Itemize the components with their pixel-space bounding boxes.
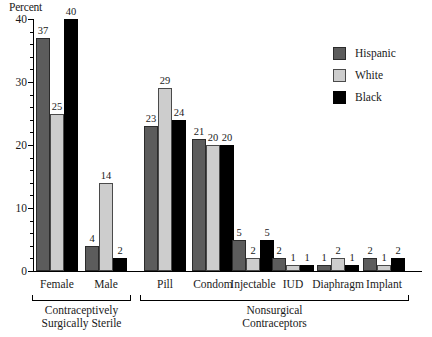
bar-value-label: 2 [335, 245, 340, 256]
bar [363, 258, 377, 271]
x-axis-label-male: Male [94, 278, 118, 290]
bar-value-label: 5 [264, 227, 269, 238]
y-tick-minor [30, 195, 33, 196]
legend-swatch-icon [333, 69, 346, 82]
y-tick-minor [30, 95, 33, 96]
y-tick-minor [30, 120, 33, 121]
y-tick-label: 10 [16, 202, 28, 214]
bar [345, 265, 359, 271]
group-bracket [32, 295, 131, 301]
bar [50, 114, 64, 272]
bar-value-label: 23 [146, 113, 157, 124]
y-tick-major [28, 82, 33, 83]
bar-value-label: 2 [117, 245, 122, 256]
bar [317, 265, 331, 271]
y-tick-label: 0 [21, 265, 27, 277]
x-axis-label-implant: Implant [366, 278, 402, 290]
bar [391, 258, 405, 271]
bar-value-label: 1 [321, 252, 326, 263]
group-label-line2: Contraceptors [242, 317, 307, 330]
bar-value-label: 29 [160, 75, 171, 86]
bar-value-label: 1 [290, 252, 295, 263]
bar [300, 265, 314, 271]
bar-chart: Percent 010203040 3725404142232924212020… [0, 0, 432, 337]
bar-value-label: 5 [236, 227, 241, 238]
y-tick-label: 40 [16, 13, 28, 25]
y-tick-minor [30, 107, 33, 108]
bar-value-label: 1 [304, 252, 309, 263]
bar-value-label: 20 [222, 132, 233, 143]
y-axis-title: Percent [9, 1, 42, 13]
bar [206, 145, 220, 271]
y-tick-minor [30, 132, 33, 133]
y-tick-minor [30, 246, 33, 247]
y-tick-minor [30, 183, 33, 184]
bar [377, 265, 391, 271]
y-tick-minor [30, 57, 33, 58]
bar [144, 126, 158, 271]
y-tick-minor [30, 258, 33, 259]
x-axis-label-iud: IUD [283, 278, 303, 290]
group-label-line1: Contraceptively [42, 304, 122, 317]
legend-item-hispanic: Hispanic [333, 42, 396, 64]
x-axis-line [33, 271, 422, 272]
bar [64, 19, 78, 271]
legend-item-white: White [333, 64, 396, 86]
y-tick-minor [30, 32, 33, 33]
legend-label: White [355, 69, 383, 81]
group-label: NonsurgicalContraceptors [242, 304, 307, 330]
y-tick-label: 20 [16, 139, 28, 151]
bar [272, 258, 286, 271]
group-bracket [140, 295, 409, 301]
bar-value-label: 2 [367, 245, 372, 256]
y-tick-label: 30 [16, 76, 28, 88]
bar-value-label: 2 [395, 245, 400, 256]
x-axis-label-diaphragm: Diaphragm [312, 278, 364, 290]
bar-value-label: 4 [89, 233, 94, 244]
bar [331, 258, 345, 271]
y-tick-minor [30, 158, 33, 159]
bar-value-label: 25 [52, 101, 63, 112]
chart-legend: HispanicWhiteBlack [333, 42, 396, 108]
bar-value-label: 37 [38, 25, 49, 36]
bar [99, 183, 113, 271]
bar [232, 240, 246, 272]
bar [85, 246, 99, 271]
bar-value-label: 2 [250, 245, 255, 256]
bar [158, 88, 172, 271]
legend-swatch-icon [333, 91, 346, 104]
legend-item-black: Black [333, 86, 396, 108]
bar-value-label: 2 [276, 245, 281, 256]
bar [192, 139, 206, 271]
y-tick-major [28, 271, 33, 272]
x-axis-label-female: Female [40, 278, 74, 290]
group-label-line1: Nonsurgical [242, 304, 307, 317]
bar-value-label: 20 [208, 132, 219, 143]
legend-label: Black [355, 91, 382, 103]
y-tick-minor [30, 69, 33, 70]
bar-value-label: 40 [66, 6, 77, 17]
y-axis-line [33, 19, 34, 271]
bar-value-label: 24 [174, 107, 185, 118]
bar-value-label: 1 [381, 252, 386, 263]
y-tick-minor [30, 233, 33, 234]
bar [286, 265, 300, 271]
bar-value-label: 14 [101, 170, 112, 181]
x-axis-label-pill: Pill [157, 278, 173, 290]
legend-label: Hispanic [355, 47, 396, 59]
group-label-line2: Surgically Sterile [42, 317, 122, 330]
y-tick-minor [30, 170, 33, 171]
bar [113, 258, 127, 271]
bar-value-label: 21 [194, 126, 205, 137]
bar [36, 38, 50, 271]
x-axis-label-injectable: Injectable [230, 278, 275, 290]
x-axis-label-condom: Condom [193, 278, 233, 290]
y-tick-major [28, 19, 33, 20]
y-tick-major [28, 145, 33, 146]
bar-value-label: 1 [349, 252, 354, 263]
y-tick-minor [30, 44, 33, 45]
group-label: ContraceptivelySurgically Sterile [42, 304, 122, 330]
y-tick-minor [30, 221, 33, 222]
y-tick-major [28, 208, 33, 209]
legend-swatch-icon [333, 47, 346, 60]
